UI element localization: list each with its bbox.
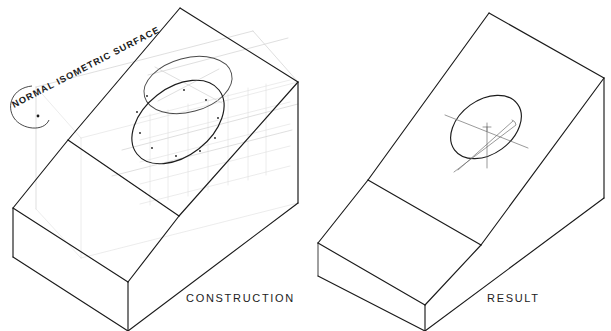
leader-point-dot	[37, 115, 40, 118]
result-base-top-front-left-edge	[318, 243, 425, 305]
ellipse-plot-point	[136, 111, 138, 113]
base-right-lower-edge	[128, 203, 298, 331]
ellipse-plot-point	[217, 117, 219, 119]
ellipse-plot-point	[139, 132, 141, 134]
construction-box-top-right-edge	[253, 31, 298, 82]
result-ellipse-group	[439, 82, 534, 172]
ellipse-plot-point	[205, 99, 207, 101]
result-base-front-lower-edge	[318, 276, 425, 331]
result-base-right-lower-edge	[425, 198, 604, 331]
technical-drawing-canvas: NORMAL ISOMETRIC SURFACE CONSTRUCTION	[0, 0, 611, 331]
result-ellipse-major-axis-line	[458, 121, 513, 170]
result-incline-left-edge	[368, 13, 489, 180]
base-top-front-right-edge	[128, 216, 179, 282]
incline-right-edge	[179, 82, 298, 216]
grid-horizontal-4	[140, 146, 290, 184]
ellipse-plot-point	[151, 147, 153, 149]
normal-isometric-surface-label: NORMAL ISOMETRIC SURFACE	[10, 25, 161, 110]
construction-box-bottom-left-edge	[36, 209, 81, 258]
grid-horizontal-2	[140, 102, 290, 140]
grid-horizontal-5	[140, 166, 290, 204]
base-top-front-left-edge	[13, 208, 128, 282]
result-incline-right-edge	[481, 78, 604, 245]
result-incline-bottom-edge	[368, 180, 481, 245]
step-left-upper-edge	[13, 140, 68, 208]
projection-line-lower	[112, 130, 292, 176]
ellipse-plot-point	[183, 89, 185, 91]
ellipse-plot-point	[199, 150, 201, 152]
result-incline-top-back-edge	[489, 13, 604, 78]
construction-box-bottom-front-edge	[81, 203, 298, 258]
construction-figure: NORMAL ISOMETRIC SURFACE CONSTRUCTION	[10, 8, 298, 331]
ellipse-plot-point	[146, 95, 148, 97]
result-figure: RESULT	[318, 13, 604, 331]
base-front-lower-edge	[13, 257, 128, 331]
ellipse-plot-point	[175, 155, 177, 157]
result-object-outline	[318, 13, 604, 331]
incline-left-edge	[68, 8, 180, 140]
ellipse-plot-point	[214, 137, 216, 139]
drawing-sheet: NORMAL ISOMETRIC SURFACE CONSTRUCTION	[0, 0, 611, 331]
grid-horizontal-3	[140, 124, 290, 162]
result-ellipse-horizontal-axis	[445, 115, 528, 148]
result-step-left-upper-edge	[318, 180, 368, 243]
incline-bottom-edge	[68, 140, 179, 216]
caption-result: RESULT	[487, 292, 540, 304]
caption-construction: CONSTRUCTION	[186, 292, 295, 304]
construction-box-front-top-edge	[81, 82, 298, 138]
